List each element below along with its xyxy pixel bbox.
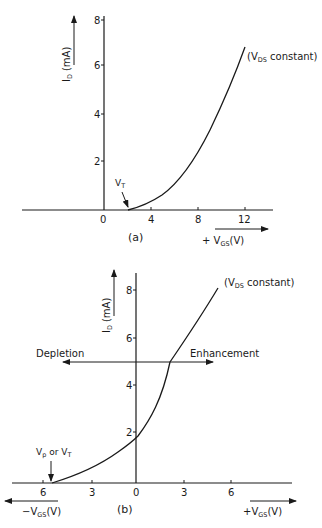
a-x-axis-label: + VGS(V) bbox=[202, 235, 244, 248]
a-x-tick-0: 0 bbox=[100, 214, 106, 225]
a-x-tick-4: 4 bbox=[148, 214, 154, 225]
b-y-tick-8: 8 bbox=[126, 285, 132, 296]
a-threshold-label: VT bbox=[115, 178, 125, 190]
b-curve-label: (VDS constant) bbox=[224, 277, 295, 290]
b-threshold-label: Vp or VT bbox=[36, 447, 71, 459]
a-threshold-arrow bbox=[122, 192, 128, 207]
b-x-tick-pos3: 3 bbox=[181, 487, 187, 498]
b-y-axis-label: ID(mA) bbox=[101, 298, 114, 333]
a-curve-label: (VDS constant) bbox=[247, 51, 318, 64]
b-x-tick-neg6: 6 bbox=[40, 487, 46, 498]
b-y-tick-2: 2 bbox=[126, 427, 132, 438]
depletion-label: Depletion bbox=[36, 348, 84, 359]
a-caption: (a) bbox=[128, 231, 143, 244]
a-y-tick-2: 2 bbox=[94, 156, 100, 167]
a-y-tick-4: 4 bbox=[94, 109, 100, 120]
a-x-tick-8: 8 bbox=[195, 214, 201, 225]
b-y-tick-4: 4 bbox=[126, 380, 132, 391]
svg-text:ID(mA): ID(mA) bbox=[101, 298, 114, 333]
a-x-tick-12: 12 bbox=[238, 214, 251, 225]
a-y-tick-6: 6 bbox=[94, 60, 100, 71]
b-y-tick-6: 6 bbox=[126, 333, 132, 344]
diagram-a: 8 6 4 2 0 4 8 12 ID(mA) VT (VDS const bbox=[22, 15, 318, 248]
b-x-tick-pos6: 6 bbox=[228, 487, 234, 498]
enhancement-label: Enhancement bbox=[190, 348, 259, 359]
b-x-tick-0: 0 bbox=[133, 487, 139, 498]
a-y-tick-8: 8 bbox=[94, 15, 100, 26]
a-y-axis-label: ID(mA) bbox=[61, 47, 74, 82]
svg-text:ID(mA): ID(mA) bbox=[61, 47, 74, 82]
b-pos-x-axis-label: +VGS(V) bbox=[243, 506, 282, 519]
b-neg-x-axis-label: −VGS(V) bbox=[22, 506, 61, 519]
a-transfer-curve bbox=[128, 47, 245, 210]
diagram-b: 8 6 4 2 6 3 0 3 6 ID(mA) Depletion Enhan… bbox=[5, 270, 296, 519]
b-caption: (b) bbox=[117, 503, 133, 516]
b-x-tick-neg3: 3 bbox=[89, 487, 95, 498]
mosfet-transfer-characteristics: 8 6 4 2 0 4 8 12 ID(mA) VT (VDS const bbox=[0, 0, 322, 528]
